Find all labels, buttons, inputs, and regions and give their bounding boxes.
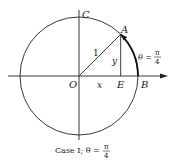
label-x: x bbox=[97, 80, 102, 90]
theta-frac-num: π bbox=[155, 49, 160, 57]
label-a: A bbox=[120, 24, 128, 35]
caption-frac-den: 4 bbox=[104, 152, 109, 160]
label-radius: 1 bbox=[93, 48, 99, 58]
label-b: B bbox=[140, 79, 148, 90]
theta-arc bbox=[121, 34, 138, 76]
unit-circle-diagram: C A 1 y O x E B θ = π 4 Case I; θ = π 4 bbox=[0, 0, 176, 165]
theta-frac-den: 4 bbox=[155, 58, 160, 66]
label-y: y bbox=[111, 56, 118, 66]
caption-frac-num: π bbox=[104, 143, 109, 151]
label-c: C bbox=[82, 9, 90, 20]
label-o: O bbox=[69, 79, 77, 90]
caption-prefix: Case I; θ = bbox=[55, 146, 100, 155]
theta-label: θ = bbox=[138, 53, 152, 62]
label-e: E bbox=[116, 79, 125, 90]
x-axis-arrow-icon bbox=[160, 74, 168, 79]
